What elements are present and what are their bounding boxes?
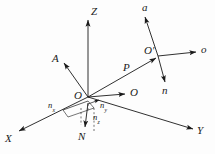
label-component-nz: nz (93, 113, 100, 124)
label-vector-n-normal: N (78, 131, 85, 142)
label-axis-y: Y (197, 125, 203, 136)
label-vector-p: P (123, 62, 130, 73)
component-ny-arrow (88, 100, 99, 104)
vector-o-world-line (88, 94, 125, 97)
label-vector-o-tool: o (201, 44, 207, 55)
label-component-nx: nx (48, 101, 55, 112)
vector-n-normal-line (85, 103, 88, 127)
label-component-ny-base: n (100, 100, 104, 110)
figure-vector-canvas (0, 0, 215, 154)
label-vector-a-tool: a (142, 2, 148, 13)
vector-n-tool-line (158, 56, 165, 82)
coordinate-frame-figure: Z X Y O A O P O′ a o n N nx ny nz (0, 0, 215, 154)
vector-o-tool-line (158, 52, 196, 56)
label-component-nz-sub: z (98, 119, 100, 125)
label-origin-o: O (74, 90, 82, 101)
label-component-ny-sub: y (105, 107, 108, 113)
label-axis-x: X (5, 133, 12, 144)
label-tool-origin: O′ (144, 45, 154, 56)
label-vector-n-tool: n (162, 85, 168, 96)
label-component-nx-base: n (48, 100, 52, 110)
vector-p-line (88, 58, 156, 97)
label-component-ny: ny (100, 101, 107, 112)
label-vector-o-world: O (130, 87, 138, 98)
label-component-nz-base: n (93, 112, 97, 122)
component-nx-line (63, 101, 88, 110)
label-axis-z: Z (91, 6, 97, 17)
label-component-nx-sub: x (53, 107, 56, 113)
label-vector-a-world: A (52, 53, 59, 64)
